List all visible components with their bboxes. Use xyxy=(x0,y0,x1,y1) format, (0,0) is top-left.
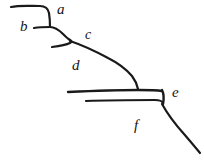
terrain-cross-section-drawing: abcdef xyxy=(0,0,204,160)
label-c: c xyxy=(85,27,92,42)
label-a: a xyxy=(57,1,65,17)
sketch-figure: abcdef xyxy=(0,0,204,160)
label-b: b xyxy=(20,18,28,34)
label-d: d xyxy=(72,57,80,73)
label-e: e xyxy=(172,84,179,100)
canvas-background xyxy=(0,0,204,160)
